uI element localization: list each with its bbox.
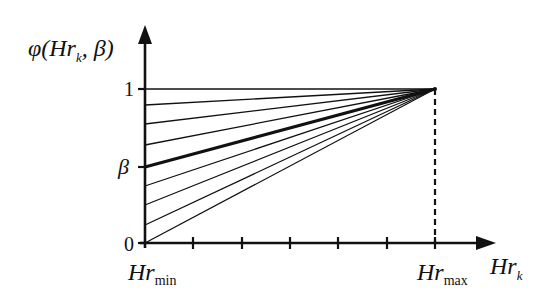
x-tick-hr-max: Hrmax [416, 259, 468, 288]
y-tick-0: 0 [124, 233, 134, 255]
diagram-canvas: 1 β 0 φ(Hrk, β) Hrmin Hrmax Hrk [0, 0, 552, 298]
y-tick-1: 1 [124, 78, 134, 100]
x-axis-arrow-icon [476, 236, 496, 250]
y-tick-beta: β [117, 154, 129, 179]
line-beta-0 [145, 89, 435, 243]
y-axis-arrow-icon [138, 25, 152, 44]
x-tick-hr-min: Hrmin [127, 259, 176, 288]
line-6 [145, 89, 435, 186]
svg-text:Hrk: Hrk [489, 253, 523, 283]
convergence-point [433, 87, 437, 91]
svg-text:Hrmax: Hrmax [416, 259, 468, 288]
svg-text:φ(Hrk, β): φ(Hrk, β) [28, 35, 114, 65]
line-8 [145, 89, 435, 225]
x-axis-label: Hrk [489, 253, 523, 283]
line-beta-bold [145, 89, 435, 167]
svg-text:Hrmin: Hrmin [127, 259, 176, 288]
line-family [145, 89, 435, 243]
y-axis-label: φ(Hrk, β) [28, 35, 114, 65]
